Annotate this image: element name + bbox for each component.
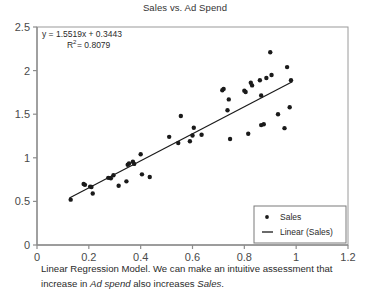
- data-point: [269, 73, 273, 77]
- data-point: [262, 122, 266, 126]
- figure-caption: Linear Regression Model. We can make an …: [41, 262, 341, 291]
- data-point: [282, 126, 286, 130]
- y-axis-tick-labels: 00.511.522.5: [15, 21, 37, 251]
- data-point: [116, 184, 120, 188]
- figure-container: Sales vs. Ad Spend 00.511.522.5 00.20.40…: [0, 0, 370, 308]
- caption-part-2: also increases: [131, 278, 198, 289]
- data-point: [176, 141, 180, 145]
- data-point: [192, 126, 196, 130]
- data-point: [243, 90, 247, 94]
- data-point: [276, 112, 280, 116]
- data-point: [89, 185, 93, 189]
- data-point: [227, 97, 231, 101]
- data-point: [167, 135, 171, 139]
- data-point: [289, 78, 293, 82]
- data-point: [188, 139, 192, 143]
- legend-marker-sales: [265, 215, 269, 219]
- data-point: [138, 152, 142, 156]
- data-point: [258, 78, 262, 82]
- data-point: [190, 133, 194, 137]
- data-point: [127, 161, 131, 165]
- data-point: [221, 87, 225, 91]
- data-point: [83, 183, 87, 187]
- y-axis-tick-label: 0.5: [15, 195, 30, 207]
- data-point: [124, 179, 128, 183]
- r-squared-value: = 0.8079: [77, 40, 111, 50]
- data-point: [179, 114, 183, 118]
- data-point: [268, 50, 272, 54]
- caption-italic-sales: Sales: [197, 278, 221, 289]
- y-axis-tick-label: 1.5: [15, 108, 30, 120]
- y-axis-tick-label: 1: [24, 152, 30, 164]
- data-point: [264, 76, 268, 80]
- data-point: [246, 132, 250, 136]
- equation-text: y = 1.5519x + 0.3443: [42, 29, 122, 39]
- legend-label-linear-sales: Linear (Sales): [280, 227, 333, 237]
- data-point: [132, 162, 136, 166]
- legend-label-sales: Sales: [280, 212, 301, 222]
- y-axis-tick-label: 2.5: [15, 21, 30, 33]
- x-axis-tick-labels: 00.20.40.60.811.2: [34, 245, 356, 263]
- data-point: [259, 93, 263, 97]
- data-point: [68, 197, 72, 201]
- y-axis-tick-label: 0: [24, 239, 30, 251]
- data-point: [111, 173, 115, 177]
- x-axis-tick-label: 0: [34, 251, 40, 263]
- data-point: [250, 83, 254, 87]
- data-point: [199, 132, 203, 136]
- caption-part-3: .: [221, 278, 224, 289]
- data-point: [225, 108, 229, 112]
- data-point: [91, 191, 95, 195]
- data-point: [285, 65, 289, 69]
- data-point: [228, 137, 232, 141]
- caption-italic-ad-spend: Ad spend: [90, 278, 131, 289]
- data-point: [140, 172, 144, 176]
- legend: Sales Linear (Sales): [254, 206, 346, 243]
- data-point: [287, 105, 291, 109]
- y-axis-tick-label: 2: [24, 65, 30, 77]
- x-axis-tick-label: 1.2: [340, 251, 355, 263]
- data-point: [148, 175, 152, 179]
